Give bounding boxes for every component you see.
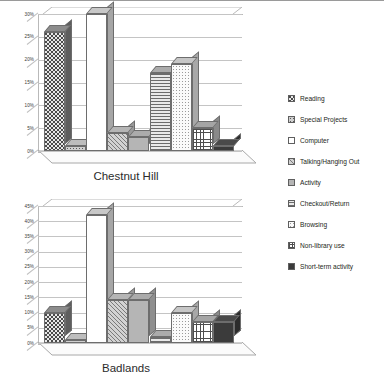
legend-swatch-icon — [288, 242, 295, 249]
legend-swatch-icon — [288, 179, 295, 186]
bar-front-face — [65, 146, 86, 151]
legend-swatch-icon — [288, 263, 295, 270]
chart-title-chestnut-hill: Chestnut Hill — [0, 168, 252, 184]
legend-item-label: Short-term activity — [300, 263, 353, 271]
legend-swatch-icon — [288, 200, 295, 207]
bars-top — [0, 4, 252, 168]
bar-front-face — [86, 14, 107, 151]
bar-computer[interactable] — [86, 215, 107, 343]
legend-item-label: Reading — [300, 95, 325, 103]
bar-front-face — [192, 128, 213, 151]
legend-item-talking-hanging-out[interactable]: Talking/Hanging Out — [288, 151, 384, 172]
bar-short-term-activity[interactable] — [213, 322, 234, 343]
bar-special-projects[interactable] — [65, 146, 86, 151]
bar-talking-hanging-out[interactable] — [107, 133, 128, 151]
bar-front-face — [128, 300, 149, 343]
bar-side-face — [234, 309, 241, 336]
bar-special-projects[interactable] — [65, 340, 86, 343]
chart-title-badlands: Badlands — [0, 360, 252, 376]
plot-area-top: 30%25%20%15%10%5%0% — [0, 4, 252, 168]
bar-short-term-activity[interactable] — [213, 146, 234, 151]
chart-badlands: 45%40%35%30%25%20%15%10%5%0% Badlands — [0, 196, 252, 386]
page-top-divider — [0, 0, 384, 1]
chart-legend: ReadingSpecial ProjectsComputerTalking/H… — [288, 88, 384, 277]
legend-item-label: Computer — [300, 137, 329, 145]
bar-front-face — [107, 133, 128, 151]
legend-item-label: Special Projects — [300, 116, 347, 124]
legend-item-browsing[interactable]: Browsing — [288, 214, 384, 235]
bar-front-face — [150, 73, 171, 151]
legend-swatch-icon — [288, 137, 295, 144]
chart-chestnut-hill: 30%25%20%15%10%5%0% Chestnut Hill — [0, 4, 252, 194]
bar-checkout-return[interactable] — [150, 73, 171, 151]
legend-item-special-projects[interactable]: Special Projects — [288, 109, 384, 130]
bar-front-face — [44, 313, 65, 343]
bar-front-face — [107, 300, 128, 343]
bar-front-face — [150, 337, 171, 343]
bar-front-face — [86, 215, 107, 343]
legend-item-non-library-use[interactable]: Non-library use — [288, 235, 384, 256]
legend-swatch-icon — [288, 95, 295, 102]
legend-item-label: Browsing — [300, 221, 327, 229]
bar-non-library-use[interactable] — [192, 322, 213, 343]
bar-browsing[interactable] — [171, 313, 192, 343]
legend-swatch-icon — [288, 158, 295, 165]
bar-computer[interactable] — [86, 14, 107, 151]
legend-swatch-icon — [288, 221, 295, 228]
legend-item-label: Talking/Hanging Out — [300, 158, 359, 166]
legend-item-short-term-activity[interactable]: Short-term activity — [288, 256, 384, 277]
legend-item-label: Checkout/Return — [300, 200, 349, 208]
bar-front-face — [65, 340, 86, 343]
bar-front-face — [171, 64, 192, 151]
bar-front-face — [192, 322, 213, 343]
bar-front-face — [213, 146, 234, 151]
bars-bottom — [0, 196, 252, 360]
bar-front-face — [44, 32, 65, 151]
bar-reading[interactable] — [44, 313, 65, 343]
legend-swatch-icon — [288, 116, 295, 123]
bar-checkout-return[interactable] — [150, 337, 171, 343]
legend-item-reading[interactable]: Reading — [288, 88, 384, 109]
bar-browsing[interactable] — [171, 64, 192, 151]
bar-side-face — [65, 19, 72, 144]
bar-talking-hanging-out[interactable] — [107, 300, 128, 343]
bar-top-face — [213, 139, 240, 146]
legend-item-checkout-return[interactable]: Checkout/Return — [288, 193, 384, 214]
bar-front-face — [213, 322, 234, 343]
bar-activity[interactable] — [128, 137, 149, 151]
plot-area-bottom: 45%40%35%30%25%20%15%10%5%0% — [0, 196, 252, 360]
bar-non-library-use[interactable] — [192, 128, 213, 151]
legend-item-activity[interactable]: Activity — [288, 172, 384, 193]
legend-item-label: Non-library use — [300, 242, 345, 250]
bar-front-face — [128, 137, 149, 151]
bar-reading[interactable] — [44, 32, 65, 151]
legend-item-label: Activity — [300, 179, 321, 187]
bar-front-face — [171, 313, 192, 343]
legend-item-computer[interactable]: Computer — [288, 130, 384, 151]
bar-activity[interactable] — [128, 300, 149, 343]
bar-side-face — [107, 1, 114, 144]
